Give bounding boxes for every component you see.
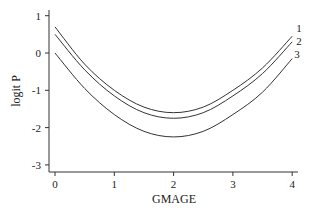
y-tick-label: 1	[36, 10, 42, 22]
x-axis-title: GMAGE	[152, 192, 196, 206]
curve-label: 2	[296, 35, 302, 47]
y-tick-label: 0	[36, 47, 42, 59]
x-axis: 01234	[49, 172, 298, 190]
x-tick-label: 3	[230, 178, 236, 190]
x-tick-label: 1	[112, 178, 118, 190]
x-tick-label: 4	[289, 178, 295, 190]
y-axis-title: logit P	[9, 75, 23, 107]
x-tick-label: 0	[52, 178, 58, 190]
curve-label: 3	[294, 48, 300, 60]
curves	[55, 27, 292, 137]
curve-labels: 123	[294, 22, 302, 59]
x-tick-label: 2	[171, 178, 177, 190]
curve-2	[55, 34, 292, 118]
y-tick-label: -2	[32, 122, 41, 134]
y-axis: 10-1-2-3	[32, 10, 49, 172]
curve-1	[55, 27, 292, 113]
curve-3	[55, 53, 292, 137]
y-tick-label: -3	[32, 159, 42, 171]
y-tick-label: -1	[32, 84, 41, 96]
curve-label: 1	[296, 22, 302, 34]
chart: 10-1-2-3 01234 logit P GMAGE 123	[0, 0, 311, 214]
